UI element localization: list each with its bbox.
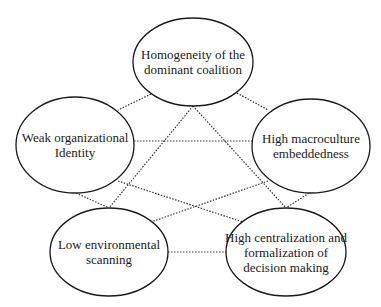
edge-homogeneity-weak-identity bbox=[118, 94, 151, 110]
label-line: Identity bbox=[22, 145, 129, 160]
node-label-homogeneity: Homogeneity of the dominant coalition bbox=[141, 47, 245, 77]
node-label-macroculture: High macroculture embeddedness bbox=[262, 131, 360, 161]
edge-homogeneity-macroculture bbox=[237, 93, 268, 110]
label-line: formalization of bbox=[225, 245, 347, 260]
label-line: decision making bbox=[225, 260, 347, 275]
label-line: Low environmental bbox=[58, 237, 160, 252]
node-label-low-scanning: Low environmental scanning bbox=[58, 237, 160, 267]
label-line: Weak organizational bbox=[22, 130, 129, 145]
edge-weak-identity-low-scanning bbox=[76, 193, 109, 208]
label-line: scanning bbox=[58, 252, 160, 267]
label-line: embeddedness bbox=[262, 146, 360, 161]
node-label-weak-identity: Weak organizational Identity bbox=[22, 130, 129, 160]
edge-macroculture-centralization bbox=[286, 193, 309, 208]
node-label-centralization: High centralization and formalization of… bbox=[225, 230, 347, 275]
label-line: High macroculture bbox=[262, 131, 360, 146]
label-line: dominant coalition bbox=[141, 62, 245, 77]
label-line: Homogeneity of the bbox=[141, 47, 245, 62]
diagram-canvas: Homogeneity of the dominant coalition We… bbox=[0, 0, 381, 307]
label-line: High centralization and bbox=[225, 230, 347, 245]
